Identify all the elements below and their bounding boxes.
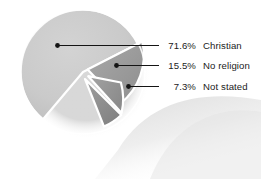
callout-row-christian: 71.6% Christian [152, 40, 261, 52]
callout-label-christian: Christian [203, 40, 242, 52]
callout-percent-not-stated: 7.3% [174, 81, 196, 93]
callout-row-no-religion: 15.5% No religion [152, 60, 261, 72]
callout-label-not-stated-box: Not stated [203, 81, 261, 93]
callout-label-no-religion: No religion [203, 60, 250, 72]
callout-percent-not-stated-box: 7.3% [152, 81, 196, 93]
callout-percent-christian: 71.6% [168, 40, 196, 52]
callout-label-not-stated: Not stated [203, 81, 248, 93]
callout-label-christian-box: Christian [203, 40, 261, 52]
callout-percent-no-religion: 15.5% [168, 60, 196, 72]
callout-percent-no-religion-box: 15.5% [152, 60, 196, 72]
callout-percent-christian-box: 71.6% [152, 40, 196, 52]
callout-label-no-religion-box: No religion [203, 60, 261, 72]
callout-row-not-stated: 7.3% Not stated [152, 81, 261, 93]
